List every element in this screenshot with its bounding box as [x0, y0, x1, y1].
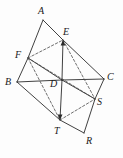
- geometry-figure: A E F B D C S T R: [0, 0, 123, 158]
- segment-R-S: [84, 99, 95, 133]
- segment-E-D: [62, 40, 63, 80]
- vertex-label-D: D: [50, 79, 57, 89]
- vertex-label-E: E: [63, 27, 69, 37]
- vertex-label-S: S: [97, 97, 102, 107]
- segment-D-C: [62, 79, 104, 80]
- vertex-label-F: F: [15, 50, 21, 60]
- segment-D-T: [60, 80, 62, 120]
- geometry-canvas: [0, 0, 123, 158]
- segment-F-T-dashed: [28, 58, 60, 120]
- vertex-label-B: B: [5, 77, 11, 87]
- segment-T-R: [60, 120, 84, 133]
- vertex-label-R: R: [86, 136, 92, 146]
- vertex-label-C: C: [107, 72, 114, 82]
- segment-A-F: [28, 20, 43, 58]
- segment-F-E-dashed: [28, 40, 63, 58]
- segment-E-C: [63, 40, 104, 79]
- segment-F-B: [17, 58, 28, 82]
- vertex-label-T: T: [54, 126, 60, 136]
- segment-A-E: [43, 20, 63, 40]
- segment-T-S-dashed: [60, 99, 95, 120]
- vertex-label-A: A: [38, 6, 44, 16]
